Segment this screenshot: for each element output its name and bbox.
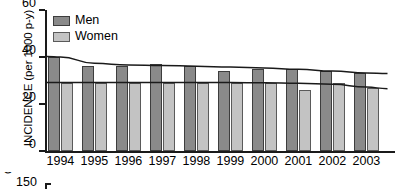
next-panel-partial-title: C) <box>2 172 14 174</box>
incidence-bar-chart-figure: INCIDENCE (per 1000 p-y) 6040200 1994199… <box>0 0 399 189</box>
next-panel-tick-mark <box>45 183 51 185</box>
next-panel-tick-label: 150 <box>16 175 37 189</box>
x-tick-label-2003: 2003 <box>346 154 386 168</box>
chart-legend: Men Women <box>53 13 118 45</box>
legend-label-men: Men <box>75 14 99 27</box>
legend-item-women: Women <box>53 29 118 44</box>
legend-swatch-men-icon <box>53 16 70 26</box>
legend-swatch-women-icon <box>53 32 70 42</box>
legend-label-women: Women <box>75 30 118 43</box>
trend-line-women <box>47 82 388 88</box>
next-panel-partial: C) 150 <box>0 172 399 189</box>
trend-line-men <box>47 57 388 74</box>
legend-item-men: Men <box>53 13 118 28</box>
